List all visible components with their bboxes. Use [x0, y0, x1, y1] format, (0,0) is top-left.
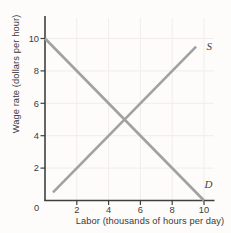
x-tick-label: 10 [199, 205, 209, 215]
labor-market-supply-demand-chart: 2468102468100 SD Labor (thousands of hou… [0, 0, 231, 233]
axis-lines [44, 16, 214, 201]
supply-curve-label: S [206, 40, 212, 52]
y-tick-label: 10 [29, 34, 39, 44]
series-labels: SD [203, 40, 212, 190]
x-tick-label: 8 [170, 205, 175, 215]
x-tick-label: 2 [74, 205, 79, 215]
y-tick-label: 4 [34, 131, 39, 141]
x-tick-label: 6 [138, 205, 143, 215]
origin-tick-label: 0 [34, 203, 39, 213]
y-tick-label: 6 [34, 99, 39, 109]
chart-canvas: 2468102468100 SD [0, 0, 231, 233]
x-tick-label: 4 [106, 205, 111, 215]
series-lines [45, 39, 204, 201]
y-tick-label: 8 [34, 66, 39, 76]
y-axis-title: Wage rate (dollars per hour) [11, 15, 21, 134]
y-tick-label: 2 [34, 163, 39, 173]
x-axis-title: Labor (thousands of hours per day) [76, 216, 225, 226]
demand-curve-label: D [203, 178, 212, 190]
